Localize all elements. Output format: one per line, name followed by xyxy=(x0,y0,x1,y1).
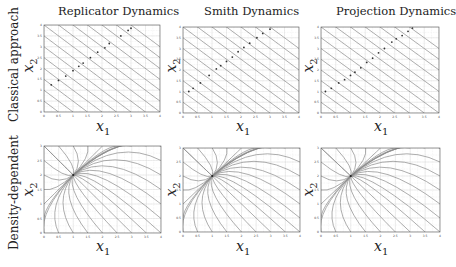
plot-smith-density: 00.511.522.533.5400.511.522.53 xyxy=(183,148,300,232)
svg-text:0.5: 0.5 xyxy=(56,114,61,118)
svg-text:2: 2 xyxy=(179,68,181,72)
svg-text:3: 3 xyxy=(131,235,133,239)
svg-text:0.5: 0.5 xyxy=(37,99,42,103)
svg-text:1.5: 1.5 xyxy=(37,77,42,81)
svg-text:2: 2 xyxy=(179,174,181,178)
svg-text:2: 2 xyxy=(317,68,319,72)
svg-text:4: 4 xyxy=(299,234,301,238)
svg-text:3.5: 3.5 xyxy=(423,234,428,238)
svg-text:0: 0 xyxy=(179,111,181,115)
svg-text:1.5: 1.5 xyxy=(224,234,229,238)
svg-text:1.5: 1.5 xyxy=(176,79,181,83)
svg-text:2: 2 xyxy=(240,115,242,119)
xlabel-bottom-right: x1 xyxy=(374,238,388,257)
svg-text:4: 4 xyxy=(179,25,181,29)
svg-text:1.5: 1.5 xyxy=(85,114,90,118)
svg-text:0.5: 0.5 xyxy=(176,216,181,220)
svg-text:3.5: 3.5 xyxy=(422,115,427,119)
xlabel-bottom-left: x1 xyxy=(96,238,110,257)
svg-text:0: 0 xyxy=(320,234,322,238)
svg-text:0: 0 xyxy=(40,110,42,114)
svg-text:0.5: 0.5 xyxy=(314,100,319,104)
ylabel-top-left: x2 xyxy=(20,58,39,72)
svg-text:1.5: 1.5 xyxy=(314,79,319,83)
svg-text:0.5: 0.5 xyxy=(333,234,338,238)
svg-text:3.5: 3.5 xyxy=(144,235,149,239)
svg-text:3: 3 xyxy=(40,144,42,148)
svg-text:3: 3 xyxy=(317,47,319,51)
svg-text:3.5: 3.5 xyxy=(143,114,148,118)
column-title-projection: Projection Dynamics xyxy=(336,4,456,18)
plot-replicator-classical: 00.511.522.533.5400.511.522.533.54 xyxy=(44,25,160,112)
svg-text:1: 1 xyxy=(211,234,213,238)
svg-text:0: 0 xyxy=(43,114,45,118)
plot-projection-density: 00.511.522.533.5400.511.522.53 xyxy=(321,148,440,232)
svg-text:1: 1 xyxy=(317,90,319,94)
svg-text:2: 2 xyxy=(102,235,104,239)
svg-text:4: 4 xyxy=(159,114,161,118)
svg-text:0: 0 xyxy=(182,234,184,238)
svg-text:4: 4 xyxy=(439,234,441,238)
svg-text:1: 1 xyxy=(179,90,181,94)
svg-text:0: 0 xyxy=(320,115,322,119)
svg-text:1.5: 1.5 xyxy=(363,234,368,238)
svg-text:2: 2 xyxy=(317,174,319,178)
svg-text:0: 0 xyxy=(179,230,181,234)
svg-text:0.5: 0.5 xyxy=(37,217,42,221)
xlabel-top-left: x1 xyxy=(96,118,110,137)
ylabel-bottom-left: x2 xyxy=(20,182,39,196)
xlabel-top-middle: x1 xyxy=(236,118,250,137)
svg-text:2.5: 2.5 xyxy=(37,159,42,163)
svg-text:3.5: 3.5 xyxy=(282,115,287,119)
svg-text:1: 1 xyxy=(350,234,352,238)
svg-text:3: 3 xyxy=(269,115,271,119)
svg-text:3: 3 xyxy=(409,115,411,119)
svg-text:1: 1 xyxy=(317,202,319,206)
svg-text:1: 1 xyxy=(40,88,42,92)
svg-text:3: 3 xyxy=(130,114,132,118)
svg-text:1.5: 1.5 xyxy=(85,235,90,239)
svg-text:3.5: 3.5 xyxy=(37,34,42,38)
svg-text:1: 1 xyxy=(72,235,74,239)
svg-text:3: 3 xyxy=(317,146,319,150)
svg-text:0: 0 xyxy=(317,230,319,234)
svg-text:3: 3 xyxy=(40,45,42,49)
svg-text:2: 2 xyxy=(40,173,42,177)
svg-text:2: 2 xyxy=(380,234,382,238)
column-title-replicator: Replicator Dynamics xyxy=(58,4,179,18)
svg-text:0: 0 xyxy=(182,115,184,119)
svg-text:4: 4 xyxy=(317,25,319,29)
svg-text:2.5: 2.5 xyxy=(314,57,319,61)
svg-text:1.5: 1.5 xyxy=(314,188,319,192)
xlabel-top-right: x1 xyxy=(374,118,388,137)
svg-text:2.5: 2.5 xyxy=(176,160,181,164)
svg-text:0: 0 xyxy=(43,235,45,239)
svg-text:2: 2 xyxy=(40,67,42,71)
svg-text:2.5: 2.5 xyxy=(393,234,398,238)
svg-text:3: 3 xyxy=(270,234,272,238)
svg-text:0.5: 0.5 xyxy=(56,235,61,239)
svg-text:3.5: 3.5 xyxy=(176,36,181,40)
svg-text:0: 0 xyxy=(40,231,42,235)
plot-replicator-density: 00.511.522.533.5400.511.522.53 xyxy=(44,146,161,233)
column-title-smith: Smith Dynamics xyxy=(204,4,299,18)
svg-text:1.5: 1.5 xyxy=(363,115,368,119)
svg-text:2.5: 2.5 xyxy=(114,114,119,118)
svg-text:0: 0 xyxy=(317,111,319,115)
svg-text:3: 3 xyxy=(409,234,411,238)
svg-text:3.5: 3.5 xyxy=(283,234,288,238)
xlabel-bottom-middle: x1 xyxy=(236,238,250,257)
svg-text:4: 4 xyxy=(298,115,300,119)
svg-text:2.5: 2.5 xyxy=(176,57,181,61)
svg-text:3: 3 xyxy=(179,146,181,150)
svg-text:3: 3 xyxy=(179,47,181,51)
svg-text:0.5: 0.5 xyxy=(333,115,338,119)
svg-text:4: 4 xyxy=(160,235,162,239)
svg-text:1: 1 xyxy=(179,202,181,206)
svg-text:2.5: 2.5 xyxy=(115,235,120,239)
svg-text:0.5: 0.5 xyxy=(195,234,200,238)
svg-text:2.5: 2.5 xyxy=(392,115,397,119)
svg-text:2.5: 2.5 xyxy=(254,234,259,238)
svg-text:2: 2 xyxy=(101,114,103,118)
svg-text:1.5: 1.5 xyxy=(176,188,181,192)
